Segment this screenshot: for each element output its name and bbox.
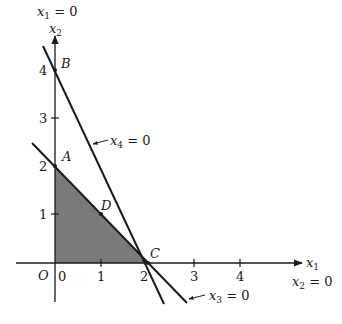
y-tick-label-1: 1 xyxy=(39,207,47,222)
point-b-label: B xyxy=(60,56,71,71)
x-tick-label-1: 1 xyxy=(97,269,105,284)
y-tick-label-4: 4 xyxy=(39,63,47,78)
lp-diagram: B A D C O 0 1 2 3 4 1 2 3 4 x2 x1 x1 = 0… xyxy=(0,0,342,324)
point-d-label: D xyxy=(100,198,112,213)
x-tick-label-2: 2 xyxy=(140,269,148,284)
x-axis-constraint-label: x2 = 0 xyxy=(292,274,333,291)
y-axis-constraint-label: x1 = 0 xyxy=(37,4,78,21)
y-tick-label-3: 3 xyxy=(39,111,47,126)
x3-label-pointer xyxy=(189,295,205,299)
x4-label-pointer xyxy=(93,140,108,144)
x-tick-label-4: 4 xyxy=(236,269,244,284)
point-c-dot xyxy=(146,261,150,265)
y-tick-label-2: 2 xyxy=(39,159,47,174)
point-a-label: A xyxy=(61,149,71,164)
x1-axis-label: x1 xyxy=(306,255,319,272)
x-tick-label-3: 3 xyxy=(190,269,198,284)
point-a-dot xyxy=(53,164,57,168)
x2-axis-label: x2 xyxy=(49,21,62,38)
x4-line-label: x4 = 0 xyxy=(110,133,151,150)
point-c-label: C xyxy=(150,246,160,261)
x3-line-label: x3 = 0 xyxy=(209,288,250,305)
origin-label: O xyxy=(38,268,49,283)
x-tick-label-0: 0 xyxy=(58,269,66,284)
point-b-dot xyxy=(53,68,57,72)
